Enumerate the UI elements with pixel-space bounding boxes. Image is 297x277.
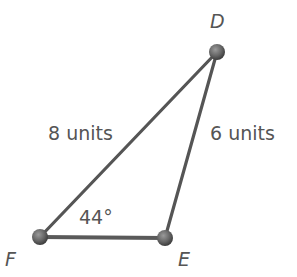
vertex-e-label: E [178,248,190,270]
side-fd-length-label: 8 units [48,122,113,144]
vertex-d-label: D [210,10,225,32]
vertex-f-point [32,229,48,245]
vertex-f-label: F [5,248,17,270]
angle-f-label: 44° [79,206,113,228]
triangle-diagram: D E F 8 units 6 units 44° [0,0,297,277]
side-fe [40,237,165,238]
side-de-length-label: 6 units [210,122,275,144]
vertex-e-point [157,230,173,246]
vertex-d-point [209,44,225,60]
